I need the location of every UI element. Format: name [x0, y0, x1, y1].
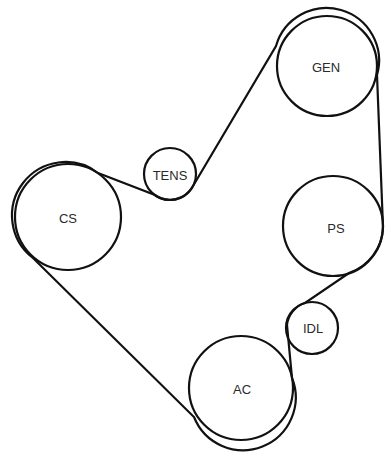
pulley-cs-label: CS: [59, 211, 77, 226]
pulley-ps: PS: [283, 176, 383, 276]
pulley-tens-label: TENS: [153, 168, 188, 183]
pulley-cs: CS: [15, 164, 121, 270]
pulley-ac: AC: [189, 336, 293, 440]
pulley-gen-label: GEN: [312, 60, 340, 75]
pulley-idl-label: IDL: [303, 321, 323, 336]
pulley-tens: TENS: [144, 148, 196, 200]
pulley-idl: IDL: [286, 302, 338, 354]
pulley-gen: GEN: [277, 16, 377, 116]
pulley-ps-label: PS: [327, 221, 345, 236]
belt-routing-diagram: CS TENS GEN PS IDL AC: [0, 0, 385, 456]
pulley-ac-label: AC: [233, 382, 251, 397]
